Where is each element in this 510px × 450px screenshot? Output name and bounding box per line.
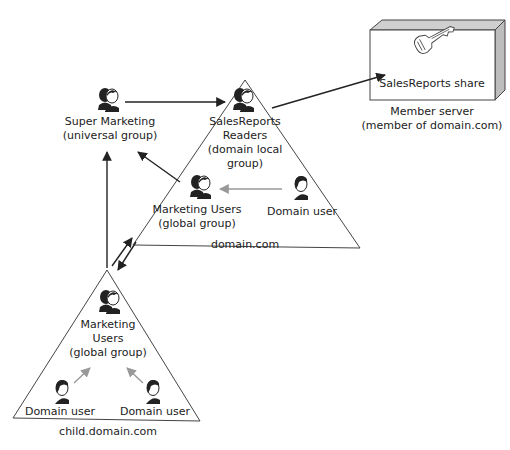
super-marketing-type: (universal group) [63,129,157,143]
marketing-users-domain-label: Marketing Users (global group) [152,203,241,231]
salesreports-readers-group-icon [233,88,254,112]
marketing-users-domain-name: Marketing Users [152,203,241,217]
salesreports-readers-label: SalesReports Readers (domain local group… [208,115,283,171]
domain-user-label: Domain user [267,205,337,219]
domain-user-icon [294,176,308,200]
marketing-users-domain-group-icon [190,175,211,199]
super-marketing-name: Super Marketing [63,115,157,129]
salesreports-readers-line4: group) [208,157,283,171]
marketing-users-domain-type: (global group) [152,217,241,231]
member-server-line1: Member server [362,105,503,119]
super-marketing-group-icon [98,88,119,112]
salesreports-readers-line1: SalesReports [208,115,283,129]
child-domain-user-right-icon [146,380,160,404]
marketing-users-child-group-icon [99,290,120,314]
domain-com-label: domain.com [211,238,279,252]
child-domain-user-left-icon [55,380,69,404]
marketing-users-child-label: Marketing Users (global group) [69,318,147,360]
member-server-label: Member server (member of domain.com) [362,105,503,133]
salesreports-share-label: SalesReports share [379,77,484,91]
super-marketing-label: Super Marketing (universal group) [63,115,157,143]
child-domain-user-left-label: Domain user [25,405,95,419]
diagram-canvas [0,0,510,450]
marketing-users-child-line2: Users [69,332,147,346]
marketing-users-child-line3: (global group) [69,346,147,360]
marketing-users-child-line1: Marketing [69,318,147,332]
salesreports-readers-line2: Readers [208,129,283,143]
child-domain-user-right-label: Domain user [120,405,190,419]
child-domain-com-label: child.domain.com [59,425,157,439]
member-server-line2: (member of domain.com) [362,119,503,133]
salesreports-readers-line3: (domain local [208,143,283,157]
